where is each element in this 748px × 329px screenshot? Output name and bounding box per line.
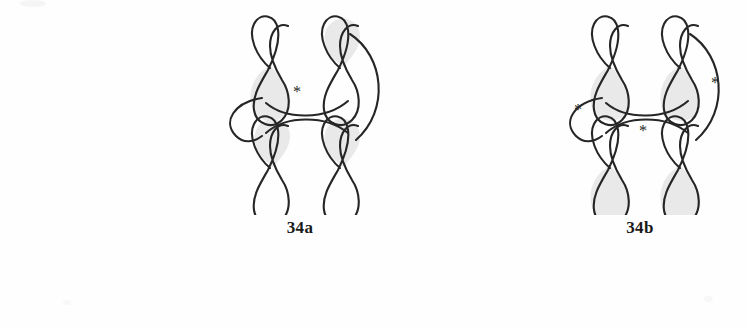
figure-canvas: * 34a [0, 0, 748, 329]
asterisk-center: * [293, 83, 301, 100]
scan-artifact-bottom-left [63, 300, 71, 305]
asterisk-left: * [574, 101, 582, 118]
shading-layer [590, 65, 700, 215]
figure-label-34b: 34b [540, 218, 740, 238]
figure-34b-drawing: * * * [540, 0, 740, 215]
scan-artifact-bottom-right [704, 296, 713, 302]
figure-34a: * 34a [200, 0, 400, 260]
figure-34b: * * * 34b [540, 0, 740, 260]
figure-34a-drawing: * [200, 0, 400, 215]
asterisks-layer: * [293, 83, 301, 100]
scan-artifact-top-left [20, 0, 46, 7]
asterisk-center: * [639, 122, 647, 139]
asterisk-right: * [711, 74, 719, 91]
figure-label-34a: 34a [200, 218, 400, 238]
